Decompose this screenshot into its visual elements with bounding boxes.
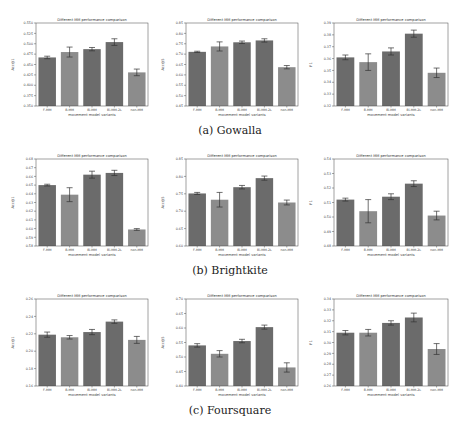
x-tick-label: B-MM — [65, 248, 74, 252]
x-tick-label: F-MM — [193, 248, 202, 252]
y-tick-label: 0.450 — [24, 63, 33, 67]
bar — [61, 337, 78, 386]
x-tick-label: Bi-MM-2L — [406, 248, 421, 252]
y-tick-label: 0.60 — [176, 244, 183, 248]
x-axis-label: movement model variants — [367, 113, 415, 117]
y-tick-label: 0.33 — [324, 308, 331, 312]
x-tick-label: F-MM — [193, 388, 202, 392]
y-tick-label: 0.65 — [26, 183, 33, 187]
bar — [382, 51, 400, 106]
y-tick-label: 0.65 — [176, 312, 183, 316]
bar — [188, 52, 205, 106]
y-tick-label: 0.70 — [176, 297, 183, 301]
x-tick-label: non-MM — [130, 248, 143, 252]
y-tick-label: 0.50 — [176, 94, 183, 98]
caption-gowalla: (a) Gowalla — [0, 124, 460, 137]
y-tick-label: 0.59 — [26, 236, 33, 240]
y-tick-label: 0.85 — [176, 21, 183, 25]
y-tick-label: 0.34 — [324, 297, 331, 301]
bar — [61, 52, 78, 106]
y-tick-label: 0.80 — [176, 32, 183, 36]
x-axis-label: movement model variants — [68, 113, 116, 117]
y-tick-label: 0.32 — [324, 104, 331, 108]
chart-brightkite-acc1: Different MM performance comparison0.580… — [8, 150, 156, 262]
chart-title: Different MM performance comparison — [207, 294, 276, 298]
x-axis-label: movement model variants — [218, 253, 266, 257]
x-tick-label: Bi-MM — [87, 388, 97, 392]
chart-gowalla-acc5: Different MM performance comparison0.450… — [158, 14, 306, 122]
y-tick-label: 0.49 — [324, 230, 331, 234]
y-axis-label: F1 — [309, 200, 313, 204]
y-tick-label: 0.32 — [324, 319, 331, 323]
chart-title: Different MM performance comparison — [356, 294, 425, 298]
x-tick-label: F-MM — [43, 108, 52, 112]
bar — [405, 184, 423, 246]
bar — [359, 333, 377, 386]
y-tick-label: 0.20 — [26, 349, 33, 353]
y-tick-label: 0.34 — [324, 80, 331, 84]
bar — [188, 193, 205, 246]
y-tick-label: 0.33 — [324, 92, 331, 96]
y-tick-label: 0.80 — [176, 175, 183, 179]
x-tick-label: F-MM — [341, 248, 350, 252]
y-tick-label: 0.39 — [324, 21, 331, 25]
y-axis-label: F1 — [309, 340, 313, 344]
bar — [83, 332, 100, 386]
bar — [211, 46, 228, 106]
y-tick-label: 0.51 — [324, 201, 331, 205]
y-tick-label: 0.26 — [324, 384, 331, 388]
x-tick-label: F-MM — [43, 248, 52, 252]
y-tick-label: 0.60 — [176, 73, 183, 77]
bar — [38, 335, 55, 386]
y-tick-label: 0.400 — [24, 83, 33, 87]
x-tick-label: F-MM — [43, 388, 52, 392]
y-axis-label: Acc@5 — [161, 336, 165, 348]
y-tick-label: 0.60 — [176, 326, 183, 330]
caption-foursquare: (c) Foursquare — [0, 404, 460, 417]
x-tick-label: B-MM — [215, 248, 224, 252]
y-tick-label: 0.54 — [324, 157, 331, 161]
y-tick-label: 0.22 — [26, 332, 33, 336]
bar — [38, 57, 55, 106]
x-tick-label: F-MM — [341, 388, 350, 392]
y-tick-label: 0.64 — [26, 192, 33, 196]
row-gowalla: Different MM performance comparison0.350… — [0, 0, 460, 140]
chart-gowalla-acc1: Different MM performance comparison0.350… — [8, 14, 156, 122]
bar — [233, 187, 250, 246]
chart-title: Different MM performance comparison — [207, 18, 276, 22]
bar — [233, 341, 250, 386]
y-tick-label: 0.55 — [176, 341, 183, 345]
y-tick-label: 0.500 — [24, 42, 33, 46]
x-tick-label: B-MM — [364, 248, 373, 252]
x-tick-label: non-MM — [430, 388, 443, 392]
y-tick-label: 0.60 — [26, 227, 33, 231]
x-axis-label: movement model variants — [367, 253, 415, 257]
bar — [211, 354, 228, 386]
x-tick-label: non-MM — [280, 108, 293, 112]
x-tick-label: B-MM — [364, 108, 373, 112]
y-tick-label: 0.58 — [26, 244, 33, 248]
bar — [382, 323, 400, 386]
y-tick-label: 0.68 — [26, 157, 33, 161]
y-tick-label: 0.26 — [26, 297, 33, 301]
chart-title: Different MM performance comparison — [356, 154, 425, 158]
y-tick-label: 0.55 — [176, 83, 183, 87]
x-axis-label: movement model variants — [68, 253, 116, 257]
y-tick-label: 0.38 — [324, 33, 331, 37]
y-tick-label: 0.350 — [24, 104, 33, 108]
bar — [61, 195, 78, 246]
bar — [83, 49, 100, 106]
bar — [337, 57, 355, 106]
x-tick-label: non-MM — [280, 248, 293, 252]
y-tick-label: 0.70 — [176, 209, 183, 213]
bar — [233, 42, 250, 106]
y-tick-label: 0.48 — [324, 244, 331, 248]
bar — [38, 185, 55, 246]
bar — [337, 333, 355, 386]
bar — [382, 197, 400, 246]
x-tick-label: non-MM — [430, 248, 443, 252]
x-axis-label: movement model variants — [218, 113, 266, 117]
y-axis-label: Acc@5 — [161, 58, 165, 70]
y-tick-label: 0.75 — [176, 192, 183, 196]
y-tick-label: 0.45 — [176, 104, 183, 108]
